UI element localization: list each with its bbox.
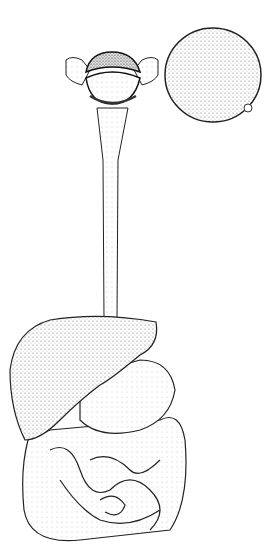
- esophagus: [97, 108, 128, 320]
- large-intestine: [23, 418, 186, 541]
- digestive-system-illustration: [0, 0, 271, 553]
- illustration-canvas: [0, 0, 271, 553]
- apple: [165, 28, 261, 122]
- mouth: [66, 52, 158, 104]
